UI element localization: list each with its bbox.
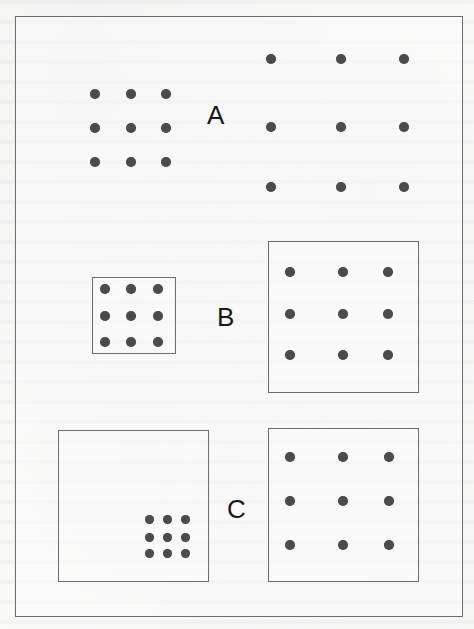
dot-row-c-left-r0c0	[145, 515, 154, 524]
dot-row-b-right-r0c1	[338, 267, 348, 277]
dot-row-b-left-r0c1	[126, 284, 136, 294]
dot-row-b-left-r1c0	[100, 311, 110, 321]
dot-row-c-left-r1c1	[163, 533, 172, 542]
dot-row-c-right-r0c2	[384, 452, 394, 462]
dot-row-a-right-r0c1	[336, 54, 346, 64]
dot-row-b-left-r0c2	[153, 284, 163, 294]
dot-row-a-right-r1c2	[399, 122, 409, 132]
dot-row-b-left-r2c1	[126, 337, 136, 347]
dot-row-a-left-r1c2	[161, 123, 171, 133]
dot-row-b-right-r1c0	[285, 309, 295, 319]
dot-row-c-right-r2c2	[384, 540, 394, 550]
dot-row-b-right-r2c1	[338, 350, 348, 360]
figure-page: ABC	[0, 0, 474, 629]
dot-row-c-right-r2c0	[285, 540, 295, 550]
dot-row-b-left-r1c1	[126, 311, 136, 321]
dot-row-b-left-r2c2	[153, 337, 163, 347]
dot-row-a-right-r0c2	[399, 54, 409, 64]
row-label-c: C	[227, 496, 246, 522]
dot-row-c-right-r0c1	[338, 452, 348, 462]
dot-row-b-left-r1c2	[153, 311, 163, 321]
dot-row-a-left-r1c0	[90, 123, 100, 133]
dot-row-a-right-r1c0	[266, 122, 276, 132]
row-label-a: A	[207, 102, 224, 128]
dot-row-b-left-r2c0	[100, 337, 110, 347]
dot-row-a-left-r2c0	[90, 157, 100, 167]
dot-row-a-left-r0c0	[90, 89, 100, 99]
dot-row-a-right-r2c0	[266, 182, 276, 192]
dot-row-c-left-r1c0	[145, 533, 154, 542]
dot-row-a-left-r2c2	[161, 157, 171, 167]
frame-c-left	[58, 430, 209, 582]
dot-row-c-left-r0c1	[163, 515, 172, 524]
dot-row-b-right-r2c2	[383, 350, 393, 360]
dot-row-c-left-r2c1	[163, 549, 172, 558]
dot-row-b-right-r0c2	[383, 267, 393, 277]
dot-row-b-right-r2c0	[285, 350, 295, 360]
dot-row-c-right-r2c1	[338, 540, 348, 550]
dot-row-a-right-r2c1	[336, 182, 346, 192]
dot-row-a-left-r2c1	[126, 157, 136, 167]
dot-row-c-right-r1c2	[384, 496, 394, 506]
dot-row-c-right-r0c0	[285, 452, 295, 462]
dot-row-a-left-r0c2	[161, 89, 171, 99]
dot-row-b-right-r1c2	[383, 309, 393, 319]
dot-row-b-right-r1c1	[338, 309, 348, 319]
dot-row-a-left-r0c1	[126, 89, 136, 99]
dot-row-c-right-r1c1	[338, 496, 348, 506]
dot-row-a-left-r1c1	[126, 123, 136, 133]
dot-row-c-right-r1c0	[285, 496, 295, 506]
row-label-b: B	[217, 304, 234, 330]
dot-row-a-right-r2c2	[399, 182, 409, 192]
dot-row-b-right-r0c0	[285, 267, 295, 277]
dot-row-c-left-r2c2	[181, 549, 190, 558]
dot-row-a-right-r1c1	[336, 122, 346, 132]
dot-row-b-left-r0c0	[100, 284, 110, 294]
dot-row-c-left-r0c2	[181, 515, 190, 524]
dot-row-a-right-r0c0	[266, 54, 276, 64]
dot-row-c-left-r1c2	[181, 533, 190, 542]
dot-row-c-left-r2c0	[145, 549, 154, 558]
